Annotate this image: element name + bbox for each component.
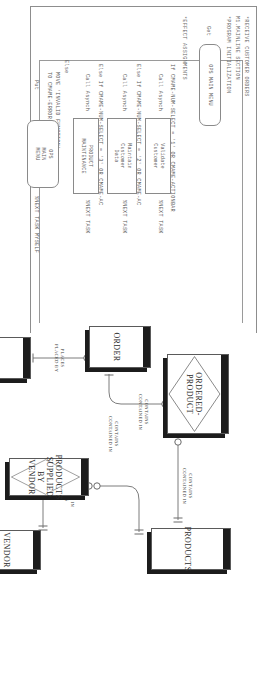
branch-1-next: %NEXT TASK [157,200,163,234]
entity-cap [221,355,228,433]
rel-label-products-psv: CONTAINSCONTAINED IN [108,406,119,462]
entity-body: ORDER [89,326,151,368]
title-line-2: M1.MAINLINE SECTION [234,16,240,80]
entity-body: ORDERED-PRODUCT [167,354,229,434]
branch-3-next: %NEXT TASK [84,200,90,234]
rel-forward: CONTAINS [144,399,149,424]
entity-products[interactable]: PRODUCTS [151,528,231,570]
rel-forward: CONTAINS [114,421,119,446]
entity-name: PRODUCTS SUPPLIED BY VENDOR [10,459,81,495]
rel-label-customer-order: PLACESPLACED BY [54,332,65,384]
rel-label-order-ordered-product: CONTAINSCONTAINED IN [138,386,149,438]
entity-body: PRODUCTS [151,528,231,570]
scanned-page: *RECEIVE CUSTOMER ORDERS M1.MAINLINE SEC… [0,0,271,687]
entity-order[interactable]: ORDER [89,326,151,368]
entity-name: PRODUCTS [152,529,223,569]
rel-label-ordered-product-products: CONTAINSCONTAINED IN [182,458,193,514]
ops-main-menu-box: OPS MAIN MENU [199,44,221,126]
branch-2-box-label: Maintain Customer Data [112,119,132,193]
rel-reverse: PLACED BY [54,344,59,372]
entity-cap [23,338,30,378]
rel-reverse: CONTAINED IN [182,468,187,504]
title-line-3: *PROGRAM INITIALIZATION [225,16,231,93]
branch-1-box-label: Validate Customer [151,119,164,193]
branch-3-box: PRODUCT MAINTENANCE [73,118,99,194]
entity-name: ORDERED-PRODUCT [168,355,221,433]
entity-cap [143,327,150,367]
rel-forward: CONTAINS [188,473,193,498]
entity-ordered-product[interactable]: ORDERED-PRODUCT [167,354,229,434]
rel-reverse: CONTAINED IN [138,394,143,430]
branch-2-box: Maintain Customer Data [107,118,137,194]
entity-vendor[interactable]: VENDOR [0,530,41,570]
rel-forward: PLACES [60,349,65,368]
title-line-1: *RECEIVE CUSTOMER ORDERS [243,16,249,97]
entity-name: VENDOR [0,531,33,569]
else-next: %NEXT TASK MYSELF [33,196,39,253]
else-box-label: OPS MAIN MENU [33,121,53,187]
branch-3-call: Call Asynch [84,74,90,111]
branch-1-call: Call Asynch [157,74,163,111]
er-diagram: CONTAINSCONTAINED IN CONTAINSCONTAINED I… [0,340,271,687]
branch-2-call: Call Asynch [121,74,127,111]
get-keyword: Get [205,26,211,36]
rel-reverse: CONTAINED IN [108,416,113,452]
entity-name: CUSTOMER [0,338,23,378]
entity-body: PRODUCTS SUPPLIED BY VENDOR [9,458,89,496]
else-ops-main-menu-box: OPS MAIN MENU [27,120,59,188]
branch-3-box-label: PRODUCT MAINTENANCE [79,119,92,193]
entity-name: ORDER [90,327,143,367]
effect-assignments-header: *EFFECT ASSIGNMENTS [181,16,187,80]
branch-2-next: %NEXT TASK [121,200,127,234]
entity-body: VENDOR [0,530,41,570]
else-keyword: Else [63,60,69,73]
entity-products-supplied-by-vendor[interactable]: PRODUCTS SUPPLIED BY VENDOR [9,458,89,496]
entity-cap [223,529,230,569]
branch-1-box: Validate Customer [145,118,171,194]
action-diagram: *RECEIVE CUSTOMER ORDERS M1.MAINLINE SEC… [0,0,271,340]
entity-cap [81,459,88,495]
entity-customer[interactable]: CUSTOMER [0,337,31,379]
ops-main-menu-label: OPS MAIN MENU [207,45,214,125]
connector-products-psv [91,470,153,542]
entity-body: CUSTOMER [0,337,31,379]
else-put-keyword: Put [33,80,39,90]
entity-cap [33,531,40,569]
